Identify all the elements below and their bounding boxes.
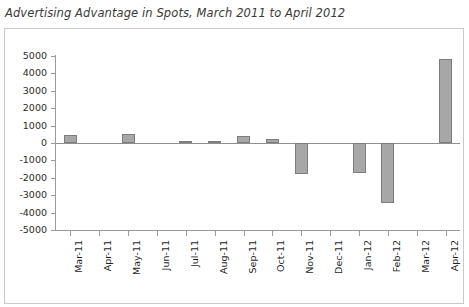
bar xyxy=(122,134,135,143)
bar xyxy=(208,141,221,143)
bar xyxy=(439,59,452,143)
y-axis-label: 5000 xyxy=(0,51,47,61)
x-axis-label: Sep-11 xyxy=(248,240,258,273)
x-axis-label: Jun-11 xyxy=(161,240,171,270)
x-axis-tick xyxy=(359,231,360,236)
x-axis-label: Jan-12 xyxy=(363,240,373,270)
y-axis-label: 2000 xyxy=(0,103,47,113)
x-axis-label: Feb-12 xyxy=(392,240,402,272)
x-axis-label: Apr-11 xyxy=(103,240,113,271)
x-axis-tick xyxy=(186,231,187,236)
x-axis-label: Apr-12 xyxy=(450,240,460,271)
x-axis-line xyxy=(55,230,460,231)
x-axis-label: Dec-11 xyxy=(334,240,344,274)
y-axis-label: 4000 xyxy=(0,68,47,78)
bar xyxy=(237,136,250,143)
y-axis-label: 3000 xyxy=(0,86,47,96)
bar xyxy=(353,143,366,173)
bar xyxy=(179,141,192,143)
y-axis-label: 1000 xyxy=(0,121,47,131)
bar xyxy=(381,143,394,203)
y-axis-label: -5000 xyxy=(0,225,47,235)
y-axis-label: -2000 xyxy=(0,173,47,183)
x-axis-tick xyxy=(99,231,100,236)
x-axis-tick xyxy=(301,231,302,236)
x-axis-tick xyxy=(446,231,447,236)
x-axis-tick xyxy=(215,231,216,236)
x-axis-label: Jul-11 xyxy=(190,240,200,267)
x-axis-label: Mar-11 xyxy=(74,240,84,273)
bar xyxy=(266,139,279,143)
y-axis-tick xyxy=(51,230,56,231)
x-axis-tick xyxy=(330,231,331,236)
chart-figure: Advertising Advantage in Spots, March 20… xyxy=(0,0,469,307)
x-axis-tick xyxy=(70,231,71,236)
x-axis-tick xyxy=(272,231,273,236)
x-axis-tick xyxy=(157,231,158,236)
y-axis-label: 0 xyxy=(0,138,47,148)
y-axis-label: -3000 xyxy=(0,190,47,200)
y-axis-label: -1000 xyxy=(0,155,47,165)
x-axis-tick xyxy=(417,231,418,236)
bar xyxy=(64,135,77,143)
chart-title: Advertising Advantage in Spots, March 20… xyxy=(5,2,445,24)
x-axis-tick xyxy=(244,231,245,236)
x-axis-label: Nov-11 xyxy=(305,240,315,274)
bar xyxy=(295,143,308,174)
zero-baseline xyxy=(56,143,460,144)
x-axis-label: May-11 xyxy=(132,240,142,275)
x-axis-label: Mar-12 xyxy=(421,240,431,273)
y-axis-label: -4000 xyxy=(0,208,47,218)
x-axis-tick xyxy=(388,231,389,236)
x-axis-label: Aug-11 xyxy=(219,240,229,274)
x-axis-tick xyxy=(128,231,129,236)
x-axis-label: Oct-11 xyxy=(276,240,286,272)
